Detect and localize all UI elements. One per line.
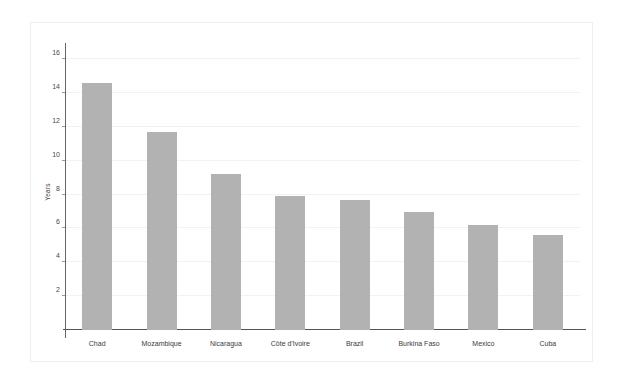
x-axis-labels: ChadMozambiqueNicaraguaCôte d'IvoireBraz… (65, 330, 580, 350)
x-axis-label: Burkina Faso (398, 340, 439, 347)
y-tick-label: 14 (52, 83, 60, 90)
x-axis-label: Brazil (346, 340, 364, 347)
x-label-slot: Nicaragua (194, 330, 258, 350)
bar[interactable] (533, 235, 563, 330)
x-axis-label: Chad (89, 340, 106, 347)
bar[interactable] (340, 200, 370, 330)
bar-slot (258, 49, 322, 330)
bar-slot (323, 49, 387, 330)
y-axis-title: Years (44, 183, 51, 200)
bar-slot (451, 49, 515, 330)
bar-slot (129, 49, 193, 330)
x-label-slot: Côte d'Ivoire (258, 330, 322, 350)
x-axis-label: Côte d'Ivoire (271, 340, 310, 347)
bar-series (65, 49, 580, 330)
x-axis-label: Cuba (539, 340, 556, 347)
x-label-slot: Burkina Faso (387, 330, 451, 350)
y-tick-label: 12 (52, 116, 60, 123)
y-tick-label: 16 (52, 49, 60, 56)
y-tick-label: 6 (56, 218, 60, 225)
bar-slot (387, 49, 451, 330)
bar[interactable] (404, 212, 434, 330)
x-label-slot: Mozambique (129, 330, 193, 350)
y-tick-label: 10 (52, 150, 60, 157)
y-tick-label: 4 (56, 252, 60, 259)
y-tick-label: 8 (56, 184, 60, 191)
y-tick-label: 2 (56, 286, 60, 293)
bar-slot (65, 49, 129, 330)
bar[interactable] (468, 225, 498, 330)
bar-slot (516, 49, 580, 330)
x-label-slot: Brazil (323, 330, 387, 350)
bar[interactable] (147, 132, 177, 330)
bar[interactable] (82, 83, 112, 330)
x-axis-label: Mexico (472, 340, 494, 347)
plot-area: 246810121416 (65, 49, 580, 330)
bar-slot (194, 49, 258, 330)
x-axis-label: Nicaragua (210, 340, 242, 347)
x-label-slot: Cuba (516, 330, 580, 350)
bar[interactable] (211, 174, 241, 330)
x-label-slot: Chad (65, 330, 129, 350)
x-label-slot: Mexico (451, 330, 515, 350)
bar-chart-figure: Years 246810121416 ChadMozambiqueNicarag… (30, 22, 593, 362)
x-axis-label: Mozambique (142, 340, 182, 347)
bar[interactable] (275, 196, 305, 330)
